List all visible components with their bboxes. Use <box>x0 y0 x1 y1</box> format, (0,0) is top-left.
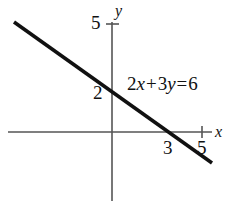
equation-constant: 6 <box>188 73 198 94</box>
equation-coef-x: 2 <box>127 73 137 94</box>
x-axis-tick-label-3: 3 <box>163 138 173 157</box>
y-axis-tick-label-5: 5 <box>91 13 101 32</box>
equation-var-x: x <box>137 73 145 94</box>
equation-plus-sign: + <box>145 73 158 94</box>
y-axis-tick-label-2: 2 <box>93 83 103 102</box>
equation-annotation: 2x+3y=6 <box>127 74 198 93</box>
equation-coef-y: 3 <box>158 73 168 94</box>
y-axis-name-label: y <box>115 3 122 19</box>
equation-var-y: y <box>167 73 175 94</box>
equation-equals-sign: = <box>176 73 189 94</box>
plot-canvas <box>0 0 232 213</box>
x-axis-name-label: x <box>215 124 222 140</box>
coordinate-graph-figure: 5 2 3 5 y x 2x+3y=6 <box>0 0 232 213</box>
x-axis-tick-label-5: 5 <box>197 138 207 157</box>
